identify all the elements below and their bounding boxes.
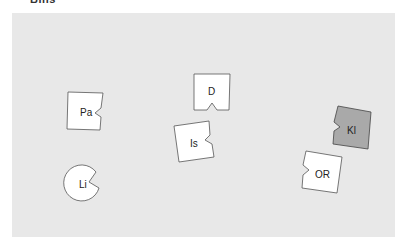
piece-or[interactable]: OR [302, 151, 342, 193]
piece-is[interactable]: Is [174, 121, 214, 162]
piece-kl[interactable]: Kl [333, 106, 371, 149]
piece-kl-label: Kl [347, 125, 356, 136]
piece-pa[interactable]: Pa [67, 92, 103, 130]
piece-li-label: Li [79, 179, 87, 190]
piece-pa-label: Pa [80, 107, 93, 118]
piece-d[interactable]: D [194, 74, 230, 110]
pieces-layer: Pa D Is Kl OR Li [0, 0, 405, 250]
piece-is-label: Is [190, 138, 198, 149]
piece-d-label: D [208, 86, 215, 97]
piece-li[interactable]: Li [64, 165, 99, 201]
piece-or-label: OR [315, 169, 330, 180]
